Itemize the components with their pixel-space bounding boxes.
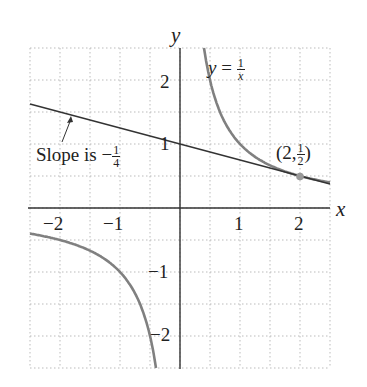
- y-tick-1: 1: [160, 134, 170, 153]
- y-axis-label: y: [171, 25, 180, 46]
- slope-fraction: 14: [112, 144, 120, 169]
- x-tick-2: 2: [294, 214, 304, 233]
- y-tick-neg1: −1: [148, 262, 168, 281]
- y-tick-neg2: −2: [150, 325, 170, 344]
- point-frac-den: 2: [297, 155, 305, 167]
- point-label-close: ): [305, 142, 311, 163]
- point-label-open: (2,: [276, 142, 297, 163]
- x-tick-neg1: −1: [103, 214, 123, 233]
- point-fraction: 12: [297, 142, 305, 167]
- curve-label: y = 1x: [208, 57, 245, 82]
- curve-frac-den: x: [237, 70, 245, 82]
- tangent-point: [296, 173, 304, 181]
- curve-label-fraction: 1x: [237, 57, 245, 82]
- arrow-head-icon: [67, 116, 73, 123]
- x-tick-neg2: −2: [43, 214, 63, 233]
- y-tick-2: 2: [160, 72, 170, 91]
- slope-text: Slope is −: [36, 144, 112, 165]
- x-tick-1: 1: [234, 214, 244, 233]
- curve-label-eq: =: [216, 57, 236, 78]
- slope-annotation: Slope is −14: [36, 144, 120, 169]
- plot-canvas: [0, 0, 367, 387]
- point-label: (2,12): [276, 142, 311, 167]
- x-axis-label: x: [336, 199, 345, 220]
- slope-frac-den: 4: [112, 157, 120, 169]
- hyperbola-branch-negative: [30, 234, 156, 368]
